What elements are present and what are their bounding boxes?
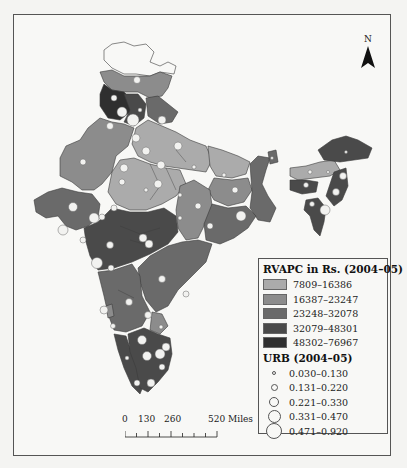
- region-jammu-kashmir: [104, 42, 176, 76]
- bubble-size-icon: [269, 397, 279, 407]
- scale-bar: 0 130 260 520 Miles: [122, 414, 322, 444]
- legend-label: 0.131–0.220: [289, 382, 348, 393]
- scale-tick-520: 520 Miles: [208, 414, 253, 424]
- region-karnataka-east: [150, 312, 168, 334]
- scale-tick-0: 0: [122, 414, 128, 424]
- legend-swatch: [263, 323, 287, 334]
- legend-swatch: [263, 279, 287, 290]
- legend-swatch: [263, 308, 287, 319]
- legend-label: 7809–16386: [293, 279, 352, 290]
- legend-label: 48302–76967: [293, 337, 358, 348]
- legend-label: 0.221–0.330: [289, 397, 348, 408]
- bubble-size-icon: [271, 384, 278, 391]
- map-legend: RVAPC in Rs. (2004–05) 7809–16386 16387–…: [258, 258, 388, 434]
- legend-label: 32079–48301: [293, 323, 358, 334]
- region-arunachal: [318, 136, 372, 162]
- legend-swatch: [263, 294, 287, 305]
- region-jharkhand: [208, 178, 252, 206]
- legend-swatch: [263, 337, 287, 348]
- north-label: N: [357, 34, 379, 44]
- scale-bar-graphic: [125, 428, 225, 440]
- region-mizoram-tripura: [304, 198, 326, 236]
- legend-title-rvapc: RVAPC in Rs. (2004–05): [263, 263, 383, 275]
- legend-item-rvapc-2: 16387–23247: [263, 293, 383, 307]
- legend-item-rvapc-4: 32079–48301: [263, 322, 383, 336]
- legend-title-urb: URB (2004–05): [263, 352, 383, 364]
- scale-tick-260: 260: [164, 414, 181, 424]
- legend-item-urb-2: 0.131–0.220: [263, 381, 383, 395]
- bubble-size-icon: [272, 371, 276, 375]
- legend-item-rvapc-5: 48302–76967: [263, 336, 383, 350]
- scale-tick-130: 130: [138, 414, 155, 424]
- region-gujarat: [34, 188, 100, 230]
- region-bihar: [208, 146, 250, 178]
- north-arrow-icon: [361, 46, 375, 68]
- legend-item-rvapc-3: 23248–32078: [263, 307, 383, 321]
- legend-label: 23248–32078: [293, 308, 358, 319]
- region-west-bengal: [250, 156, 276, 222]
- legend-label: 0.030–0.130: [289, 368, 348, 379]
- legend-item-urb-1: 0.030–0.130: [263, 367, 383, 381]
- legend-item-urb-3: 0.221–0.330: [263, 396, 383, 410]
- legend-item-rvapc-1: 7809–16386: [263, 278, 383, 292]
- north-arrow: N: [357, 34, 379, 72]
- legend-label: 16387–23247: [293, 294, 358, 305]
- region-meghalaya: [290, 180, 318, 194]
